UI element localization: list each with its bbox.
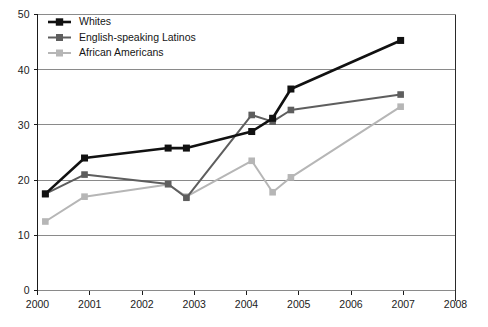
data-point-marker [81,193,88,200]
x-tick-label-2008: 2008 [444,298,468,310]
legend-item-african-americans: African Americans [48,46,164,58]
legend-marker-swatch [56,50,63,57]
legend-item-whites: Whites [48,15,111,27]
series-line-path [45,40,400,193]
y-tick-label-20: 20 [18,174,30,186]
y-tick-label-10: 10 [18,229,30,241]
y-tick-label-40: 40 [18,64,30,76]
y-tick-label-0: 0 [24,284,30,296]
x-axis-tick-labels: 200020012002200320042005200620072008 [26,298,468,310]
data-point-marker [81,155,88,162]
x-tick-label-2003: 2003 [183,298,207,310]
y-tick-label-30: 30 [18,119,30,131]
data-point-marker [397,103,404,110]
x-tick-label-2006: 2006 [339,298,363,310]
x-tick-label-2002: 2002 [130,298,154,310]
data-point-marker [42,218,49,225]
data-point-marker [183,194,190,201]
x-tick-label-2001: 2001 [78,298,102,310]
data-point-marker [288,174,295,181]
data-point-marker [288,107,295,114]
chart-container: 01020304050 2000200120022003200420052006… [0,0,488,327]
series-line-path [45,95,400,198]
data-point-marker [269,189,276,196]
series-african-americans [42,103,404,224]
data-point-marker [397,37,404,44]
data-point-marker [248,157,255,164]
data-point-marker [165,181,172,188]
legend-label: African Americans [79,46,164,58]
data-point-marker [287,86,294,93]
data-series-group [42,37,404,225]
y-axis-tick-labels: 01020304050 [18,8,30,296]
x-tick-marks [38,291,456,295]
x-tick-label-2004: 2004 [235,298,259,310]
data-point-marker [165,145,172,152]
data-point-marker [42,190,49,197]
x-tick-label-2007: 2007 [392,298,416,310]
legend-marker-swatch [56,18,63,25]
y-tick-label-50: 50 [18,8,30,20]
x-tick-label-2000: 2000 [26,298,50,310]
series-whites [42,37,404,197]
legend-label: Whites [79,15,111,27]
line-chart: 01020304050 2000200120022003200420052006… [0,0,488,327]
data-point-marker [248,128,255,135]
data-point-marker [183,145,190,152]
legend-label: English-speaking Latinos [79,31,196,43]
legend-item-english-speaking-latinos: English-speaking Latinos [48,31,196,43]
series-english-speaking-latinos [42,91,404,201]
series-line-path [45,107,400,222]
data-point-marker [248,112,255,119]
data-point-marker [269,115,276,122]
data-point-marker [81,171,88,178]
data-point-marker [397,91,404,98]
chart-legend: WhitesEnglish-speaking LatinosAfrican Am… [48,15,196,58]
x-tick-label-2005: 2005 [287,298,311,310]
legend-marker-swatch [56,34,63,41]
